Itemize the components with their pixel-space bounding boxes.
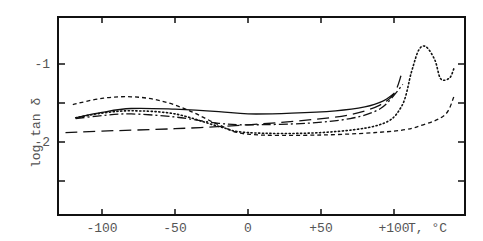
chart: -100-500+50+100 -1-2 T, °C log tan δ (0, 0, 483, 241)
x-axis-ticks: -100-500+50+100 (86, 17, 409, 236)
x-tick-label: -100 (86, 221, 117, 236)
series-lines (66, 46, 454, 135)
x-tick-label: 0 (244, 221, 252, 236)
y-axis-label: log tan δ (29, 98, 44, 168)
series-dash-dot (76, 84, 403, 125)
x-tick-label: -50 (163, 221, 186, 236)
x-tick-label: +50 (309, 221, 332, 236)
series-dotted (76, 46, 454, 134)
x-axis-label: T, °C (408, 221, 447, 236)
plot-frame (58, 17, 465, 215)
x-tick-label: +100 (378, 221, 409, 236)
y-tick-label: -1 (34, 57, 50, 72)
plot-border (58, 17, 465, 215)
y-axis-ticks: -1-2 (34, 57, 465, 181)
